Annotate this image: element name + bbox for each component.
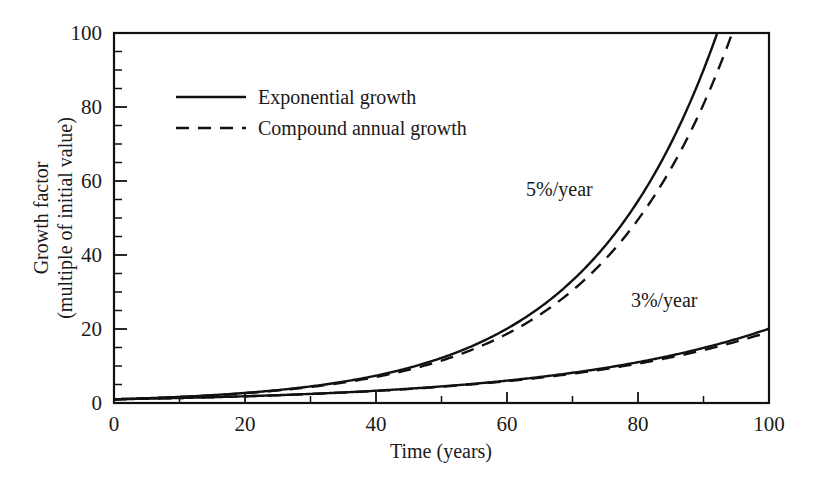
chart-canvas: 020406080100020406080100 Exponential gro… <box>0 0 818 479</box>
x-tick-label: 0 <box>109 412 120 436</box>
curve-solid-5pct <box>114 0 769 399</box>
x-tick-label: 60 <box>497 412 518 436</box>
x-tick-label: 100 <box>753 412 785 436</box>
data-curves <box>114 0 769 399</box>
curve-annotations: 5%/year3%/year <box>526 178 698 312</box>
plot-frame <box>114 33 769 403</box>
x-tick-label: 80 <box>628 412 649 436</box>
y-tick-label: 100 <box>71 21 103 45</box>
growth-factor-chart-figure: 020406080100020406080100 Exponential gro… <box>0 0 818 479</box>
curve-dashed-5pct <box>114 0 769 399</box>
y-tick-label: 40 <box>81 243 102 267</box>
x-tick-label: 20 <box>235 412 256 436</box>
legend-label: Exponential growth <box>258 86 416 109</box>
x-tick-label: 40 <box>366 412 387 436</box>
curve-dashed-3pct <box>114 332 769 399</box>
annotation-label: 5%/year <box>526 178 593 201</box>
y-tick-label: 60 <box>81 169 102 193</box>
y-tick-label: 0 <box>92 391 103 415</box>
y-axis-title-line1: Growth factor <box>30 161 52 274</box>
major-tick-marks <box>114 33 769 403</box>
y-tick-label: 80 <box>81 95 102 119</box>
tick-labels: 020406080100020406080100 <box>71 21 785 436</box>
curve-solid-3pct <box>114 329 769 400</box>
legend-label: Compound annual growth <box>258 117 467 140</box>
y-axis-title-line2: (multiple of initial value) <box>54 117 77 319</box>
y-tick-label: 20 <box>81 317 102 341</box>
x-axis-title: Time (years) <box>390 440 492 463</box>
chart-legend: Exponential growthCompound annual growth <box>176 86 467 140</box>
annotation-label: 3%/year <box>631 289 698 312</box>
